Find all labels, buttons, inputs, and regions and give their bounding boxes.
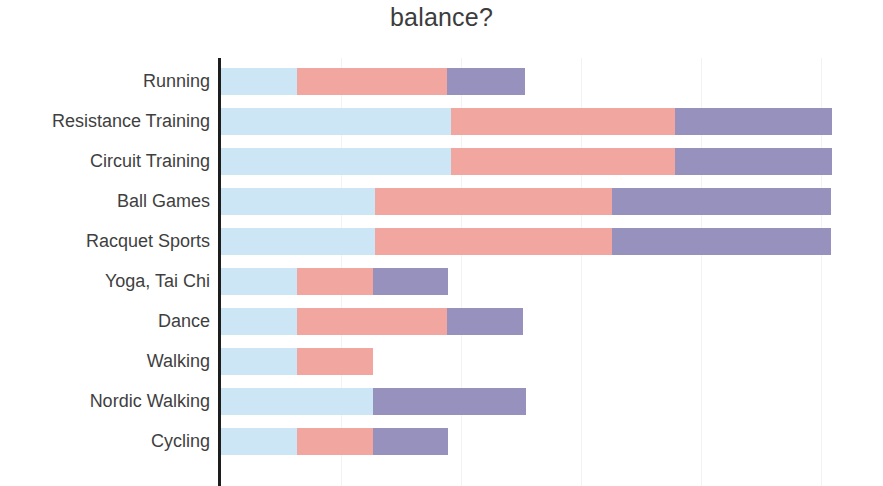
bar-segment-segment-3 bbox=[675, 108, 832, 135]
bar-segment-segment-3 bbox=[447, 308, 524, 335]
bar-segment-segment-2 bbox=[297, 268, 374, 295]
category-labels-column: RunningResistance TrainingCircuit Traini… bbox=[0, 58, 210, 486]
bar-segment-segment-2 bbox=[297, 68, 447, 95]
bar-segment-segment-3 bbox=[447, 68, 525, 95]
bar-segment-segment-2 bbox=[375, 228, 613, 255]
bar-segment-segment-3 bbox=[675, 148, 832, 175]
category-label-dance: Dance bbox=[0, 312, 210, 330]
bar-segment-segment-2 bbox=[375, 188, 613, 215]
bar-segment-segment-3 bbox=[373, 428, 447, 455]
bar-segment-segment-2 bbox=[297, 348, 374, 375]
bar-segment-segment-1 bbox=[221, 308, 297, 335]
category-label-cycling: Cycling bbox=[0, 432, 210, 450]
bar-segment-segment-1 bbox=[221, 348, 297, 375]
category-label-circuit-training: Circuit Training bbox=[0, 152, 210, 170]
category-label-yoga-tai-chi: Yoga, Tai Chi bbox=[0, 272, 210, 290]
bar-segment-segment-1 bbox=[221, 108, 451, 135]
category-label-ball-games: Ball Games bbox=[0, 192, 210, 210]
bar-segment-segment-3 bbox=[373, 388, 525, 415]
bar-segment-segment-2 bbox=[451, 108, 674, 135]
bar-segment-segment-1 bbox=[221, 228, 375, 255]
bar-segment-segment-1 bbox=[221, 268, 297, 295]
bar-segment-segment-2 bbox=[297, 428, 374, 455]
chart-container: balance? RunningResistance TrainingCircu… bbox=[0, 0, 883, 486]
bar-segment-segment-3 bbox=[612, 228, 830, 255]
bar-segment-segment-1 bbox=[221, 68, 297, 95]
chart-title: balance? bbox=[0, 0, 883, 36]
bar-segment-segment-1 bbox=[221, 188, 375, 215]
category-label-nordic-walking: Nordic Walking bbox=[0, 392, 210, 410]
plot-area bbox=[221, 58, 883, 486]
category-label-running: Running bbox=[0, 72, 210, 90]
bar-segment-segment-1 bbox=[221, 428, 297, 455]
bar-segment-segment-3 bbox=[612, 188, 830, 215]
bar-segment-segment-3 bbox=[373, 268, 447, 295]
category-label-resistance-training: Resistance Training bbox=[0, 112, 210, 130]
bar-segment-segment-1 bbox=[221, 388, 373, 415]
bar-segment-segment-2 bbox=[297, 308, 447, 335]
category-label-racquet-sports: Racquet Sports bbox=[0, 232, 210, 250]
category-label-walking: Walking bbox=[0, 352, 210, 370]
bar-segment-segment-1 bbox=[221, 148, 451, 175]
bar-segment-segment-2 bbox=[451, 148, 674, 175]
